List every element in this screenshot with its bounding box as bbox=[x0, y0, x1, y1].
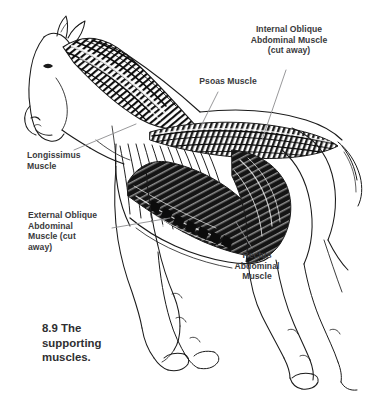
label-internal-oblique-abdominal-muscle: Internal Oblique Abdominal Muscle (cut a… bbox=[231, 24, 347, 56]
figure-caption: 8.9 The supporting muscles. bbox=[42, 321, 152, 365]
label-rectus-abdominal-muscle: Rectus Abdominal Muscle bbox=[218, 250, 296, 282]
figure-supporting-muscles: Internal Oblique Abdominal Muscle (cut a… bbox=[0, 0, 365, 400]
label-psoas-muscle: Psoas Muscle bbox=[180, 76, 276, 87]
label-longissimus-muscle: Longissimus Muscle bbox=[27, 150, 117, 171]
label-external-oblique-abdominal-muscle: External Oblique Abdominal Muscle (cut a… bbox=[28, 210, 114, 252]
